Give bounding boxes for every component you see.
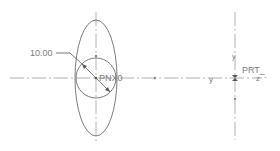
z-axis-label: z	[256, 74, 260, 83]
point-marker-horizontal	[154, 77, 156, 79]
point-marker-right-lower	[234, 98, 236, 100]
csys-label-prt: PRT_	[242, 65, 266, 75]
dimension-leader	[56, 53, 82, 64]
y-axis-label-vertical: y	[232, 53, 236, 61]
y-axis-label-horizontal: y	[209, 75, 213, 84]
csys-label-pnx0: PNX0	[99, 73, 123, 83]
point-marker-top	[95, 55, 97, 57]
axis-dash-mark: -	[264, 73, 267, 80]
dimension-text[interactable]: 10.00	[30, 48, 53, 58]
cad-drawing-canvas[interactable]: 10.00 PNX0 y y PRT_ z -	[0, 0, 280, 151]
